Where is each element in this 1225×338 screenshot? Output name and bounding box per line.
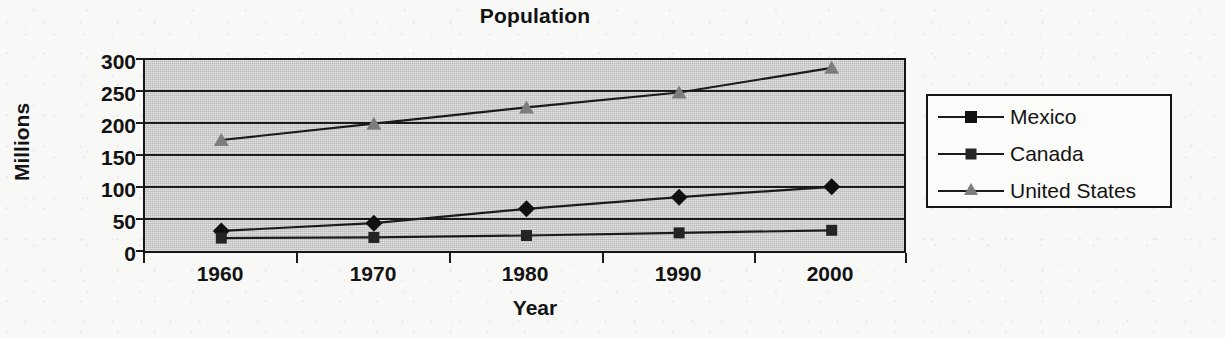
x-axis-title: Year [415,296,655,320]
square-marker-icon [966,149,977,160]
y-tick-label-100: 100 [64,179,136,200]
data-point-canada-1990 [674,227,685,238]
legend-item-united-states[interactable]: United States [938,176,1136,206]
legend-label-mexico: Mexico [1004,105,1077,129]
x-tick-mark-5 [905,253,907,263]
y-tick-label-300: 300 [64,51,136,72]
data-point-mexico-1980 [518,200,535,217]
x-tick-label-1990: 1990 [623,262,733,286]
x-tick-mark-4 [754,253,756,263]
legend-label-united-states: United States [1004,179,1136,203]
y-axis-title: Millions [10,87,34,197]
series-layer [145,60,908,255]
x-tick-label-1970: 1970 [318,262,428,286]
chart-legend[interactable]: Mexico Canada United States [926,94,1172,208]
y-tick-label-0: 0 [64,243,136,264]
y-axis-ticks: 300 250 200 150 100 50 0 [58,0,136,338]
data-point-canada-2000 [826,225,837,236]
data-point-canada-1960 [216,233,227,244]
data-point-canada-1970 [368,232,379,243]
x-tick-label-1980: 1980 [470,262,580,286]
legend-item-mexico[interactable]: Mexico [938,102,1077,132]
data-point-mexico-1990 [671,189,688,206]
legend-item-canada[interactable]: Canada [938,139,1084,169]
legend-swatch-mexico [938,106,1004,128]
legend-label-canada: Canada [1004,142,1084,166]
x-tick-mark-3 [602,253,604,263]
x-tick-mark-2 [449,253,451,263]
data-point-mexico-1970 [365,215,382,232]
x-tick-mark-1 [296,253,298,263]
y-tick-label-200: 200 [64,115,136,136]
y-tick-label-50: 50 [64,211,136,232]
data-point-united-states-2000 [824,61,839,74]
x-tick-label-1960: 1960 [165,262,275,286]
chart-page: Population Millions 300 250 200 150 100 … [0,0,1225,338]
y-tick-label-150: 150 [64,147,136,168]
data-point-canada-1980 [521,230,532,241]
triangle-marker-icon [964,183,978,195]
diamond-marker-icon [965,111,977,123]
chart-title: Population [330,4,740,28]
x-tick-label-2000: 2000 [775,262,885,286]
legend-swatch-canada [938,143,1004,165]
data-point-mexico-2000 [823,178,840,195]
plot-area [143,58,906,253]
legend-swatch-united-states [938,180,1004,202]
x-tick-mark-0 [143,253,145,263]
y-tick-label-250: 250 [64,83,136,104]
